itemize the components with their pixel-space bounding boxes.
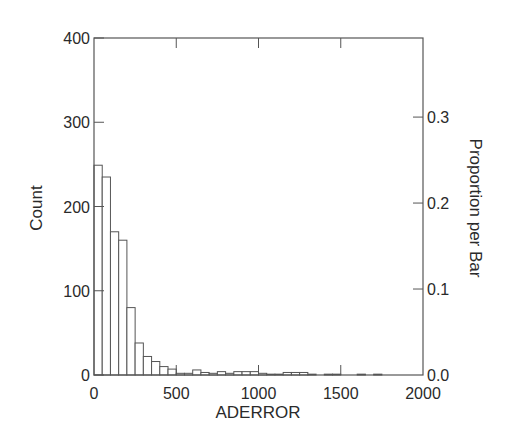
y2-tick-label: 0.0 — [427, 367, 449, 384]
histogram-bar — [193, 370, 201, 375]
y2-axis-title: Proportion per Bar — [466, 139, 485, 278]
histogram-bar — [94, 165, 102, 375]
histogram-bar — [160, 367, 168, 375]
y-tick-label: 200 — [63, 199, 90, 216]
y2-tick-label: 0.3 — [427, 109, 449, 126]
histogram-bar — [110, 232, 118, 375]
histogram-bar — [127, 308, 135, 375]
x-tick-label: 2000 — [405, 385, 441, 402]
histogram-bar — [119, 240, 127, 375]
histogram-bar — [135, 343, 143, 375]
x-tick-label: 1500 — [323, 385, 359, 402]
histogram-bar — [143, 356, 151, 375]
x-tick-label: 1000 — [241, 385, 277, 402]
x-tick-label: 500 — [163, 385, 190, 402]
y-tick-label: 300 — [63, 114, 90, 131]
y2-tick-label: 0.2 — [427, 195, 449, 212]
histogram-bar — [152, 362, 160, 375]
y-tick-label: 0 — [81, 367, 90, 384]
histogram-chart: 0100200300400 0.00.10.20.3 0500100015002… — [0, 0, 508, 440]
y-tick-label: 400 — [63, 30, 90, 47]
x-tick-label: 0 — [90, 385, 99, 402]
plot-frame — [94, 38, 423, 375]
right-y-axis: 0.00.10.20.3 — [413, 109, 449, 384]
x-axis-title: ADERROR — [215, 403, 300, 422]
y2-tick-label: 0.1 — [427, 281, 449, 298]
histogram-bars — [94, 165, 382, 375]
histogram-bar — [168, 369, 176, 375]
y-axis-title: Count — [27, 185, 46, 231]
y-tick-label: 100 — [63, 283, 90, 300]
